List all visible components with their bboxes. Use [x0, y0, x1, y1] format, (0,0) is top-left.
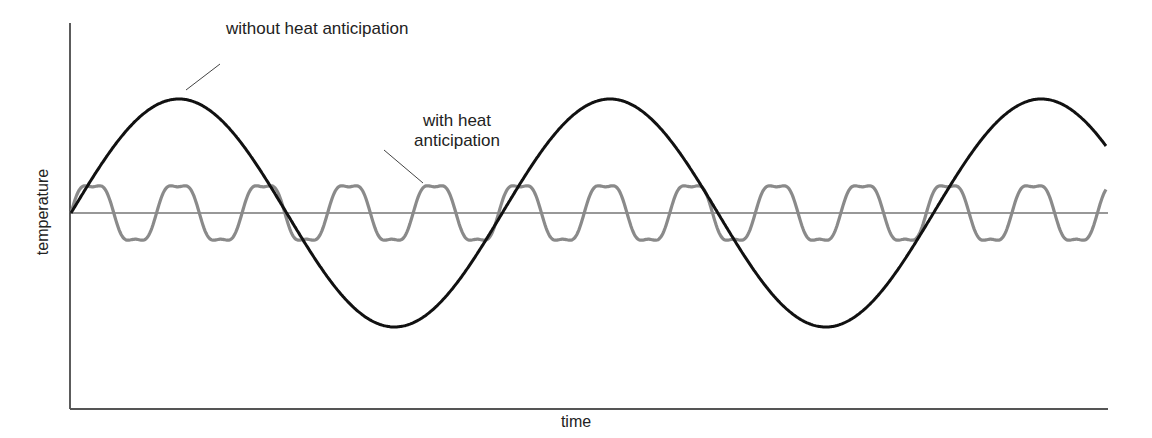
y-axis-label: temperature — [33, 169, 53, 255]
annotation-with-line2: anticipation — [414, 131, 500, 151]
x-axis-label: time — [0, 412, 1152, 432]
diagram-figure: without heat anticipation with heat anti… — [0, 0, 1152, 438]
leader-line-without — [186, 64, 220, 90]
annotation-without-heat-anticipation: without heat anticipation — [226, 19, 408, 39]
plot-area — [0, 0, 1152, 438]
annotation-with-heat-anticipation: with heat anticipation — [414, 111, 500, 151]
annotation-with-line1: with heat — [414, 111, 500, 131]
leader-line-with — [384, 150, 423, 183]
